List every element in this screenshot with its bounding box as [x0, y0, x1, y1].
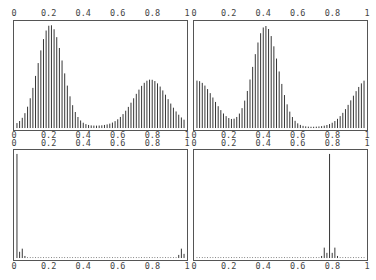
bar [147, 257, 148, 258]
x-tick-label: 0.4 [76, 262, 91, 271]
bar [287, 257, 288, 258]
bar [120, 257, 121, 258]
bar [361, 257, 362, 258]
x-tick-label: 1 [184, 262, 189, 271]
bar [313, 257, 314, 258]
bottom-left-bottom-axis-labels: 00.20.40.60.81 [14, 262, 187, 271]
bar [242, 257, 243, 258]
x-tick-label: 0.4 [256, 262, 271, 271]
bar [295, 257, 296, 258]
bar [30, 257, 31, 258]
bar [239, 257, 240, 258]
bar [112, 257, 113, 258]
x-tick-label: 0.6 [110, 9, 125, 18]
bar [141, 257, 142, 258]
x-tick-label: 0.2 [41, 262, 56, 271]
bar [350, 257, 351, 258]
x-tick-label: 0.4 [76, 139, 91, 148]
bar [220, 257, 221, 258]
bar [255, 257, 256, 258]
bar [162, 257, 163, 258]
bar [236, 257, 237, 258]
bar [308, 257, 309, 258]
bar [117, 257, 118, 258]
x-tick-label: 0.6 [110, 262, 125, 271]
bar [234, 257, 235, 258]
x-tick-label: 1 [364, 139, 369, 148]
chart-panel-bottom-left [13, 149, 188, 261]
bar [356, 257, 357, 258]
bar [340, 257, 341, 258]
bar [284, 257, 285, 258]
bar [54, 257, 55, 258]
bar [250, 257, 251, 258]
chart-panel-bottom-right [193, 149, 368, 261]
bar [154, 257, 155, 258]
bar [86, 257, 87, 258]
x-tick-label: 1 [364, 9, 369, 18]
bar [38, 257, 39, 258]
bars-top-left [14, 21, 187, 130]
bar [202, 257, 203, 258]
bar [247, 257, 248, 258]
x-tick-label: 0.8 [145, 139, 160, 148]
bar [133, 257, 134, 258]
bar [109, 257, 110, 258]
bar [345, 257, 346, 258]
bar [101, 257, 102, 258]
bar [93, 257, 94, 258]
bar [212, 257, 213, 258]
bottom-right-top-axis-labels: 00.20.40.60.81 [194, 139, 367, 148]
bar [276, 257, 277, 258]
top-left-top-axis-labels: 00.20.40.60.81 [14, 9, 187, 18]
bar [260, 257, 261, 258]
bar [244, 257, 245, 258]
x-tick-label: 0 [191, 139, 196, 148]
chart-panel-top-left [13, 20, 188, 131]
bar [83, 257, 84, 258]
x-tick-label: 0.8 [325, 139, 340, 148]
bar [56, 257, 57, 258]
bar [67, 257, 68, 258]
bar [152, 257, 153, 258]
x-tick-label: 0 [191, 9, 196, 18]
x-tick-label: 0.8 [145, 262, 160, 271]
bar [266, 257, 267, 258]
bar [271, 257, 272, 258]
x-tick-label: 0.8 [145, 9, 160, 18]
bar [258, 257, 259, 258]
top-right-top-axis-labels: 00.20.40.60.81 [194, 9, 367, 18]
x-tick-label: 0.4 [76, 9, 91, 18]
bar [207, 257, 208, 258]
bar [99, 257, 100, 258]
bar [218, 257, 219, 258]
x-tick-label: 0.8 [325, 9, 340, 18]
bar [305, 257, 306, 258]
bottom-right-bottom-axis-labels: 00.20.40.60.81 [194, 262, 367, 271]
x-tick-label: 0.4 [256, 139, 271, 148]
bar [144, 257, 145, 258]
bar [226, 257, 227, 258]
bars-top-right [194, 21, 367, 130]
x-tick-label: 0 [11, 262, 16, 271]
bar [289, 257, 290, 258]
bar [364, 257, 365, 258]
x-tick-label: 1 [364, 262, 369, 271]
bar [199, 257, 200, 258]
bar [303, 257, 304, 258]
x-tick-label: 1 [184, 9, 189, 18]
bars-bottom-left [14, 150, 187, 260]
x-tick-label: 0 [11, 139, 16, 148]
x-tick-label: 0.8 [325, 262, 340, 271]
x-tick-label: 0.2 [221, 262, 236, 271]
chart-panel-top-right [193, 20, 368, 131]
bar [40, 257, 41, 258]
bar [91, 257, 92, 258]
bar [46, 257, 47, 258]
bar [48, 257, 49, 258]
bar [353, 257, 354, 258]
x-tick-label: 1 [184, 139, 189, 148]
bar [123, 257, 124, 258]
bar [160, 257, 161, 258]
x-tick-label: 0.2 [221, 9, 236, 18]
